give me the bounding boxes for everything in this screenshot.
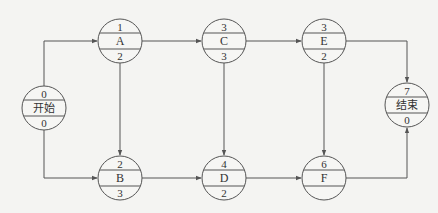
node-top-value: 2	[117, 158, 123, 170]
node-label: D	[220, 171, 229, 185]
node-label: 开始	[33, 101, 55, 115]
node-bottom-value: 2	[117, 50, 123, 62]
node-label: E	[320, 34, 327, 48]
node-label: C	[220, 34, 228, 48]
node-top-value: 6	[321, 158, 327, 170]
edge-F-end	[346, 128, 407, 178]
diagram-canvas: 0开始01A22B33C34D23E26F7结束0	[0, 0, 438, 213]
node-f: 6F	[302, 156, 346, 200]
node-top-value: 3	[321, 21, 327, 33]
node-bottom-value: 0	[404, 114, 410, 126]
nodes-layer: 0开始01A22B33C34D23E26F7结束0	[22, 19, 429, 200]
node-end: 7结束0	[385, 83, 429, 127]
node-top-value: 3	[221, 21, 227, 33]
node-top-value: 7	[404, 85, 410, 97]
node-label: A	[116, 34, 125, 48]
node-label: 结束	[396, 99, 418, 112]
node-label: F	[321, 171, 328, 185]
node-bottom-value: 3	[221, 50, 227, 62]
network-diagram: 0开始01A22B33C34D23E26F7结束0	[0, 0, 438, 213]
node-label: B	[116, 171, 124, 185]
edge-E-end	[346, 41, 407, 82]
node-c: 3C3	[202, 19, 246, 63]
node-bottom-value: 3	[117, 187, 123, 199]
edge-start-B	[44, 130, 97, 178]
node-top-value: 0	[41, 88, 47, 100]
node-top-value: 1	[117, 21, 123, 33]
node-top-value: 4	[221, 158, 227, 170]
node-bottom-value: 0	[41, 117, 47, 129]
node-bottom-value: 2	[221, 187, 227, 199]
edge-start-A	[44, 41, 97, 86]
node-bottom-value: 2	[321, 50, 327, 62]
node-start: 0开始0	[22, 86, 66, 130]
node-b: 2B3	[98, 156, 142, 200]
node-d: 4D2	[202, 156, 246, 200]
node-a: 1A2	[98, 19, 142, 63]
node-e: 3E2	[302, 19, 346, 63]
